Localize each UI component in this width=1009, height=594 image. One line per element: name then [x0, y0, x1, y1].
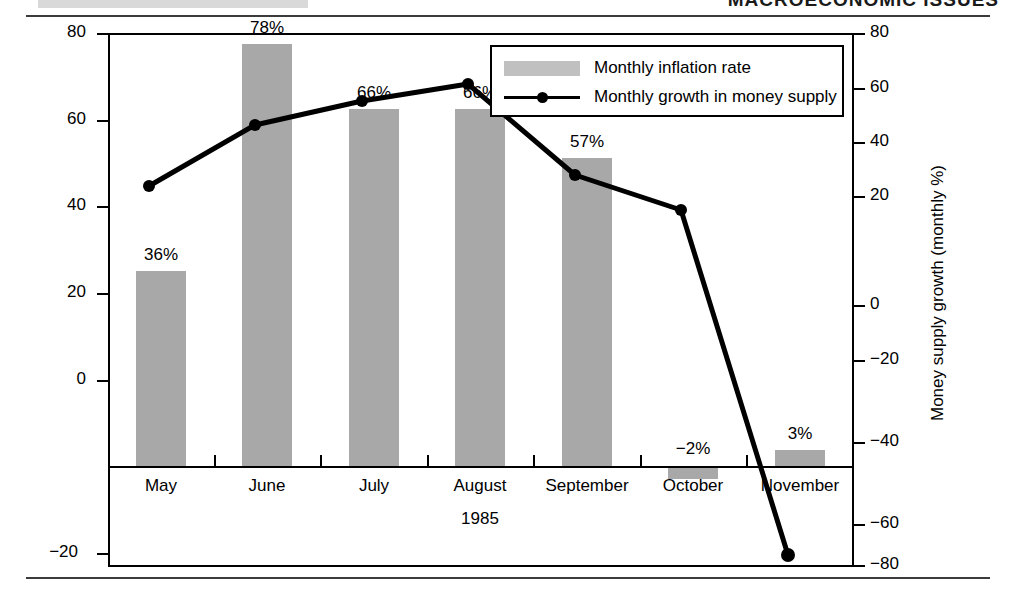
line-point-august: [462, 78, 474, 90]
line-point-october: [675, 204, 687, 216]
right-tick-60: [854, 88, 865, 90]
line-point-november: [781, 548, 795, 562]
left-axis-label-minus20: −20: [32, 542, 78, 562]
header-rule: [26, 15, 990, 17]
left-tick-80: [97, 33, 108, 35]
left-axis-label-0: 0: [40, 369, 86, 389]
header-swatch: [38, 0, 308, 8]
right-tick-minus60: [854, 524, 865, 526]
right-tick-minus20: [854, 360, 865, 362]
left-tick-20: [97, 293, 108, 295]
right-axis-title: Money supply growth (monthly %): [928, 83, 948, 503]
right-axis-label-minus20: −20: [870, 349, 920, 369]
line-point-june: [249, 119, 261, 131]
x-axis-group-label: 1985: [400, 509, 560, 529]
right-tick-minus40: [854, 442, 865, 444]
line-point-may: [143, 180, 155, 192]
left-tick-minus20: [97, 553, 108, 555]
right-tick-0: [854, 305, 865, 307]
legend-bar-swatch-icon: [504, 61, 580, 76]
line-point-september: [569, 169, 581, 181]
left-axis-label-60: 60: [40, 109, 86, 129]
legend-label-money-supply: Monthly growth in money supply: [594, 87, 837, 107]
line-point-july: [356, 95, 368, 107]
right-tick-20: [854, 196, 865, 198]
right-axis-label-20: 20: [870, 185, 920, 205]
footer-rule: [26, 577, 990, 579]
legend-item-inflation[interactable]: Monthly inflation rate: [504, 54, 751, 82]
right-axis-label-40: 40: [870, 131, 920, 151]
legend-line-marker-icon: [504, 83, 580, 111]
left-tick-40: [97, 206, 108, 208]
right-axis-label-minus80: −80: [870, 554, 920, 574]
page-header-band: MACROECONOMIC ISSUES: [0, 0, 1009, 14]
right-axis-label-60: 60: [870, 77, 920, 97]
left-axis-label-80: 80: [40, 22, 86, 42]
right-axis-label-minus60: −60: [870, 513, 920, 533]
right-axis-label-80: 80: [870, 22, 920, 42]
left-axis-label-40: 40: [40, 195, 86, 215]
chart-legend: Monthly inflation rate Monthly growth in…: [490, 45, 844, 117]
plot-area: 80 60 40 20 0 −20 80 60 40 20 0 −20 −40 …: [108, 33, 854, 567]
left-tick-0: [97, 380, 108, 382]
chart-page: MACROECONOMIC ISSUES 80 60 40 20 0 −20: [0, 0, 1009, 594]
right-tick-40: [854, 142, 865, 144]
page-title: MACROECONOMIC ISSUES: [728, 0, 999, 11]
x-label-november: November: [720, 476, 880, 496]
left-axis-label-20: 20: [40, 282, 86, 302]
right-axis-label-0: 0: [870, 294, 920, 314]
right-tick-80: [854, 33, 865, 35]
legend-item-money-supply[interactable]: Monthly growth in money supply: [504, 83, 837, 111]
left-tick-60: [97, 120, 108, 122]
right-axis-label-minus40: −40: [870, 431, 920, 451]
legend-label-inflation: Monthly inflation rate: [594, 58, 751, 78]
right-tick-minus80: [854, 565, 865, 567]
